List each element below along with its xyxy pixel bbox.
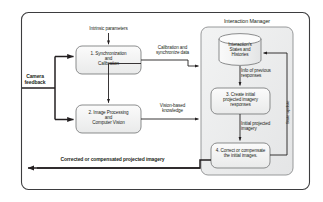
edge-label-initial-projected-imagery: Initial projected imagery bbox=[241, 121, 289, 131]
node-3-label: 3. Create initial projected imagery resp… bbox=[211, 92, 270, 107]
node-1-label: 1. Synchronization and Calibration bbox=[76, 51, 141, 66]
node-2-label: 2. Image Processing and Computer Vision bbox=[76, 110, 141, 125]
node-datastore-label: Interaction's States and Histories bbox=[214, 42, 266, 57]
edge-label-state-update: State update bbox=[286, 82, 291, 142]
flow-diagram: Interaction Manager Intrinsic parameters… bbox=[0, 0, 323, 202]
edge-label-info-of-previous-responses: Info of previous responses bbox=[241, 68, 289, 78]
diagram-canvas bbox=[0, 0, 323, 202]
edge-label-intrinsic-parameters: Intrinsic parameters bbox=[71, 26, 146, 31]
edge-label-calibration-data: Calibration and synchronize data bbox=[145, 45, 200, 55]
edge-label-corrected-projected-imagery: Corrected or compensated projected image… bbox=[30, 157, 195, 163]
connector-node1-to-manager bbox=[141, 60, 199, 66]
edge-label-camera-feedback: Camera feedback bbox=[13, 74, 57, 85]
panel-title: Interaction Manager bbox=[201, 18, 293, 24]
node-4-label: 4. Correct or compensate the initial ima… bbox=[209, 148, 272, 158]
edge-label-vision-based-knowledge: Vision-based knowledge bbox=[145, 103, 200, 113]
